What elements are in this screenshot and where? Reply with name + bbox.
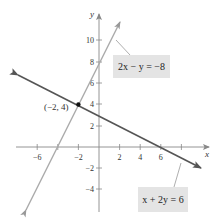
line-2x-minus-y-eq-neg8 [26,22,120,210]
line-x-plus-2y-eq-6 [18,75,201,168]
y-tick-label: −4 [85,185,94,194]
x-tick-label: 2 [118,153,122,162]
coordinate-plane: −6 −2 2 4 6 10 8 6 4 2 −2 −4 x y (−2, 4)… [0,0,222,222]
y-axis-label: y [89,9,94,19]
equation-label-1: 2x − y = −8 [118,61,165,72]
x-axis-label: x [204,149,209,159]
intersection-label: (−2, 4) [44,102,69,112]
x-tick-label: 6 [159,153,163,162]
x-tick-label: −2 [74,153,83,162]
leader-line-eq2 [174,163,181,187]
y-tick-label: 2 [90,122,94,131]
y-tick-label: 10 [86,36,94,45]
intersection-point [76,102,80,106]
y-tick-label: 8 [90,58,94,67]
leader-line-eq1 [116,40,130,55]
x-tick-label: 4 [138,153,142,162]
equation-label-2: x + 2y = 6 [142,194,183,205]
x-tick-label: −6 [33,153,42,162]
y-tick-label: −2 [85,164,94,173]
y-tick-label: 4 [90,100,94,109]
